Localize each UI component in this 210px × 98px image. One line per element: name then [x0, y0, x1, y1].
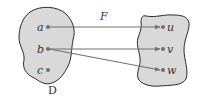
label-u: u: [167, 21, 174, 34]
label-v: v: [167, 43, 174, 56]
point-c-dot: [46, 68, 50, 72]
domain-set-label: D: [48, 84, 57, 97]
label-c: c: [37, 64, 43, 77]
point-v-dot: [161, 47, 165, 51]
label-w: w: [167, 64, 177, 77]
domain-set-blob: [19, 7, 74, 84]
point-b-dot: [46, 47, 50, 51]
label-b: b: [37, 43, 44, 56]
point-a-dot: [46, 25, 50, 29]
point-w-dot: [161, 68, 165, 72]
function-mapping-diagram: a b c u v w F D: [0, 0, 210, 98]
label-a: a: [37, 21, 44, 34]
function-label: F: [99, 10, 108, 23]
point-u-dot: [161, 25, 165, 29]
